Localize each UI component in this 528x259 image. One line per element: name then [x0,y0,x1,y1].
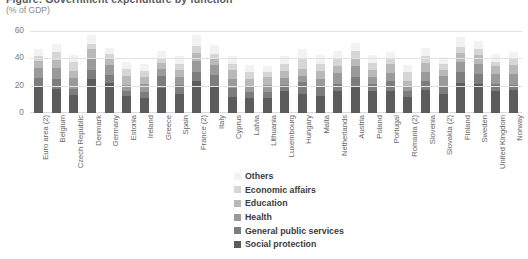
stacked-bar[interactable] [228,56,237,113]
bar-segment [192,72,201,81]
bar-segment [140,77,149,84]
bar-segment [474,41,483,48]
bar-slot [223,31,241,113]
x-label-slot: Finland [452,114,470,162]
stacked-bar[interactable] [157,51,166,113]
stacked-bar[interactable] [52,44,61,113]
bar-segment [421,90,430,113]
bar-segment [491,66,500,74]
bar-segment [351,66,360,77]
x-label-slot: Sweden [469,114,487,162]
x-label-slot: Greece [153,114,171,162]
legend-item[interactable]: Health [234,211,344,224]
legend-item[interactable]: Education [234,197,344,210]
bar-segment [368,91,377,113]
bar-slot [434,31,452,113]
bar-segment [157,51,166,58]
stacked-bar[interactable] [474,41,483,113]
x-label-slot: Spain [171,114,189,162]
legend-item-label: Economic affairs [245,185,316,195]
stacked-bar[interactable] [351,43,360,113]
bar-segment [298,69,307,76]
bar-slot [469,31,487,113]
stacked-bar[interactable] [140,64,149,113]
legend-item-label: Education [245,198,288,208]
stacked-bar[interactable] [87,35,96,113]
bar-segment [351,59,360,66]
stacked-bar[interactable] [245,65,254,113]
legend-swatch-icon [234,173,241,180]
bar-segment [122,62,131,69]
bar-slot [171,31,189,113]
stacked-bar[interactable] [316,55,325,113]
bar-segment [192,46,201,53]
x-label-slot: Hungary [294,114,312,162]
y-axis-tick-label: 20 [0,80,24,90]
stacked-bar[interactable] [263,66,272,113]
x-label-slot: Portugal [382,114,400,162]
stacked-bar[interactable] [69,55,78,113]
bar-segment [87,35,96,44]
bar-slot [188,31,206,113]
bar-segment [175,56,184,63]
x-label-slot: Austria [346,114,364,162]
stacked-bar[interactable] [456,37,465,113]
bar-slot [135,31,153,113]
bar-segment [87,79,96,113]
x-label-slot: Cyprus [223,114,241,162]
bar-segment [474,55,483,64]
stacked-bar[interactable] [386,52,395,113]
legend-swatch-icon [234,186,241,193]
bar-segment [280,91,289,113]
bar-segment [474,64,483,74]
bar-slot [65,31,83,113]
bar-segment [34,49,43,56]
stacked-bar[interactable] [509,52,518,113]
y-axis-tick-label: 0 [0,107,24,117]
bar-segment [421,63,430,72]
x-label-slot: Malta [311,114,329,162]
bar-segment [34,87,43,113]
legend-item[interactable]: General public services [234,224,344,237]
legend-item[interactable]: Economic affairs [234,184,344,197]
legend-item[interactable]: Others [234,170,344,183]
stacked-bar[interactable] [122,62,131,113]
bar-segment [105,83,114,113]
legend-swatch-icon [234,214,241,221]
stacked-bar[interactable] [491,54,500,113]
stacked-bar[interactable] [333,51,342,113]
bar-segment [87,49,96,59]
stacked-bar[interactable] [192,35,201,113]
bar-segment [192,35,201,46]
bar-segment [386,64,395,73]
bar-slot [241,31,259,113]
x-label-slot: Romania (2) [399,114,417,162]
bar-segment [509,74,518,85]
bar-slot [329,31,347,113]
bar-segment [105,65,114,75]
chart-subtitle: (% of GDP) [6,5,50,15]
legend-item-label: Health [245,212,272,222]
bar-segment [421,72,430,81]
bar-segment [52,79,61,89]
bar-segment [403,65,412,72]
x-label-slot: Euro area (2) [30,114,48,162]
bar-segment [210,87,219,114]
bar-segment [298,82,307,94]
legend-swatch-icon [234,200,241,207]
legend-item-label: General public services [245,226,344,236]
bar-slot [83,31,101,113]
legend-item[interactable]: Social protection [234,238,344,251]
legend-swatch-icon [234,227,241,234]
bar-segment [333,91,342,113]
stacked-bar[interactable] [210,45,219,113]
x-label-slot: Italy [206,114,224,162]
bar-segment [122,76,131,85]
bar-slot [399,31,417,113]
bar-slot [276,31,294,113]
bar-segment [333,66,342,73]
stacked-bar[interactable] [403,65,412,113]
stacked-bar[interactable] [368,55,377,113]
bar-segment [192,53,201,61]
stacked-bar[interactable] [175,56,184,113]
